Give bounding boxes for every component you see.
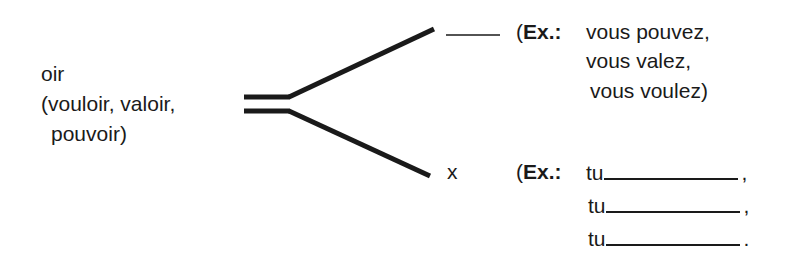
upper-example-2: vous valez, <box>586 49 691 73</box>
row-punct: . <box>744 227 750 250</box>
ex-label: Ex.: <box>523 160 562 183</box>
blank-field-1[interactable] <box>604 160 738 180</box>
verb-examples-line1: (vouloir, valoir, <box>41 92 175 116</box>
blank-field-2[interactable] <box>606 193 740 213</box>
row-prefix: tu <box>588 194 606 217</box>
upper-example-3: vous voulez) <box>590 79 708 103</box>
ending-oir: oir <box>41 62 64 86</box>
verb-examples-line2: pouvoir) <box>51 122 127 146</box>
row-prefix: tu <box>586 161 604 184</box>
lower-ending-x: x <box>447 160 458 184</box>
lower-example-open: (Ex.: <box>516 160 562 184</box>
fill-row-3: tu. <box>588 226 749 251</box>
row-punct: , <box>742 161 748 184</box>
open-paren: ( <box>516 20 523 43</box>
fill-row-2: tu, <box>588 193 749 218</box>
upper-branch-line <box>289 29 434 97</box>
lower-branch-line <box>289 111 430 176</box>
upper-example-open: (Ex.: <box>516 20 562 44</box>
fill-row-1: tu, <box>586 160 747 185</box>
blank-field-3[interactable] <box>606 226 740 246</box>
ex-label: Ex.: <box>523 20 562 43</box>
upper-example-1: vous pouvez, <box>586 20 710 44</box>
row-prefix: tu <box>588 227 606 250</box>
row-punct: , <box>744 194 750 217</box>
open-paren: ( <box>516 160 523 183</box>
